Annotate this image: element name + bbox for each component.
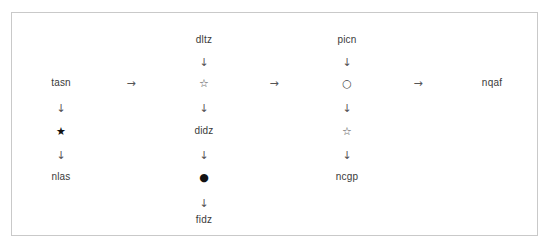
symbol-star-hollow-icon: ☆ (342, 126, 352, 137)
diagram-root: tasn ↓ ★ ↓ nlas dltz ↓ ☆ ↓ didz ↓ ● ↓ fi… (0, 0, 551, 252)
node-label-nlas: nlas (51, 172, 70, 182)
node-label-ncgp: ncgp (336, 172, 359, 182)
symbol-star-hollow-icon: ☆ (199, 78, 209, 89)
diagram-frame: tasn ↓ ★ ↓ nlas dltz ↓ ☆ ↓ didz ↓ ● ↓ fi… (11, 12, 538, 236)
node-label-tasn: tasn (51, 78, 71, 88)
node-label-didz: didz (194, 126, 213, 136)
arrow-down-icon: ↓ (342, 57, 351, 68)
arrow-down-icon: ↓ (342, 103, 351, 114)
symbol-circle-filled-icon: ● (199, 172, 209, 183)
symbol-star-filled-icon: ★ (56, 126, 66, 137)
arrow-right-icon: → (269, 78, 278, 89)
node-label-nqaf: nqaf (482, 78, 502, 88)
arrow-right-icon: → (126, 78, 135, 89)
arrow-down-icon: ↓ (199, 103, 208, 114)
arrow-down-icon: ↓ (56, 150, 65, 161)
node-label-dltz: dltz (196, 35, 212, 45)
node-label-picn: picn (337, 35, 356, 45)
arrow-down-icon: ↓ (342, 150, 351, 161)
arrow-right-icon: → (413, 78, 422, 89)
symbol-circle-hollow-icon: ○ (342, 78, 352, 89)
arrow-down-icon: ↓ (199, 198, 208, 209)
arrow-down-icon: ↓ (199, 150, 208, 161)
arrow-down-icon: ↓ (199, 57, 208, 68)
node-label-fidz: fidz (196, 215, 212, 225)
arrow-down-icon: ↓ (56, 103, 65, 114)
